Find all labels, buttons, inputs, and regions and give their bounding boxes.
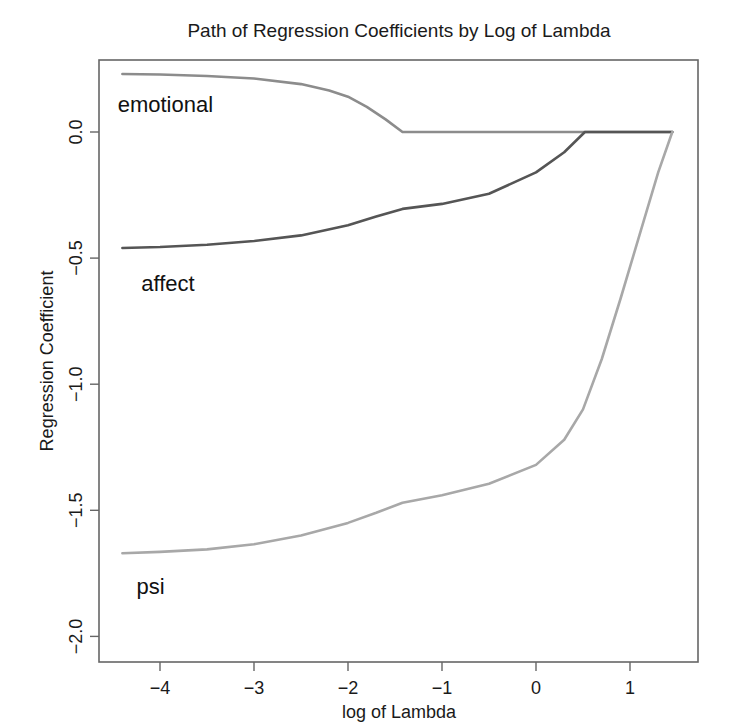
y-tick-label: −2.0 (66, 619, 86, 655)
series-labels: emotionalaffectpsi (118, 92, 213, 599)
x-tick-label: 0 (531, 678, 541, 698)
series-label-affect: affect (141, 271, 194, 296)
x-tick-label: −3 (244, 678, 265, 698)
y-tick-label: −1.0 (66, 366, 86, 402)
x-axis-label: log of Lambda (342, 702, 457, 722)
y-tick-label: 0.0 (66, 119, 86, 144)
chart-title: Path of Regression Coefficients by Log o… (187, 20, 611, 41)
x-tick-label: −1 (432, 678, 453, 698)
y-tick-label: −1.5 (66, 493, 86, 529)
series-line-affect (122, 132, 672, 248)
y-tick-label: −0.5 (66, 240, 86, 276)
x-tick-label: −4 (150, 678, 171, 698)
y-axis-label: Regression Coefficient (37, 271, 57, 452)
x-tick-label: −2 (338, 678, 359, 698)
x-axis: −4−3−2−101 (150, 662, 635, 698)
series-label-emotional: emotional (118, 92, 213, 117)
regression-path-chart: Path of Regression Coefficients by Log o… (0, 0, 731, 723)
x-tick-label: 1 (625, 678, 635, 698)
series-line-psi (122, 132, 672, 553)
plot-frame (99, 60, 698, 662)
y-axis: 0.0−0.5−1.0−1.5−2.0 (66, 119, 99, 654)
series-lines (122, 74, 672, 553)
series-label-psi: psi (137, 574, 165, 599)
